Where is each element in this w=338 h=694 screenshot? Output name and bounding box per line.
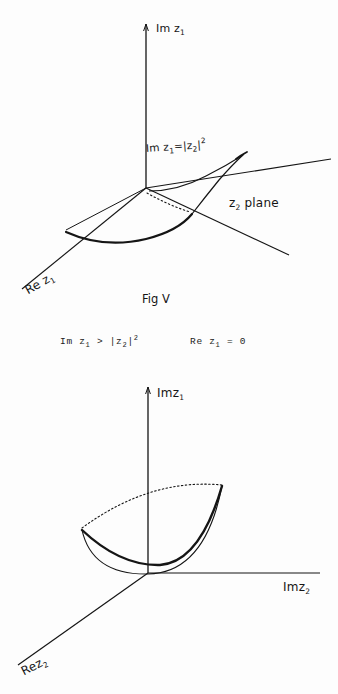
formula-inequality: Im z1 > |z2|2: [60, 336, 139, 347]
sheet-tip-stroke: [236, 152, 247, 159]
label-im-z2-axis: Imz2: [283, 580, 310, 594]
label-im-z1-text: Imz: [157, 386, 179, 400]
sheet-left-straight-edge: [66, 188, 146, 230]
formula-ineq-exponent: 2: [134, 334, 139, 342]
document-page: Im z1 Im z1=|z2|2 z2 plane Re z1 Fig V I…: [0, 0, 338, 694]
lower-figure-canvas: [0, 370, 338, 694]
formula-ineq-lead-sub: 1: [86, 341, 91, 349]
bowl-rim-back-dotted: [82, 484, 222, 528]
label-im-z1-axis-sub: 1: [180, 28, 185, 37]
sheet-front-rim-thick: [66, 214, 192, 243]
label-im-z2-text: Imz: [283, 580, 305, 594]
formula-ineq-arg-sub: 2: [123, 341, 128, 349]
label-surface-lhs-sub: 1: [169, 146, 175, 155]
bowl-rim-front-thick: [82, 486, 222, 565]
label-z2-plane: z2 plane: [229, 196, 279, 210]
formula-equation: Re z1 = 0: [190, 336, 246, 347]
label-im-z1-axis: Imz1: [157, 386, 184, 400]
formula-eq-lead-sub: 1: [216, 341, 221, 349]
axis-line-z2-plane-upper: [146, 159, 331, 188]
formula-ineq-relation: > |z: [91, 336, 123, 347]
axis-line-re-z2: [18, 573, 148, 665]
formula-eq-lead: Re z: [190, 336, 216, 347]
label-im-z1-sub: 1: [179, 393, 184, 402]
label-surface-eq: =|z: [173, 139, 192, 152]
formula-ineq-lead: Im z: [60, 336, 86, 347]
formula-eq-relation: = 0: [221, 336, 247, 347]
label-im-z1-axis-text: Im z: [156, 22, 180, 35]
fig-v-upper-diagram: Im z1 Im z1=|z2|2 z2 plane Re z1 Fig V: [0, 0, 338, 330]
label-surface-lhs: Im z: [146, 140, 170, 154]
label-im-z2-sub: 2: [305, 587, 310, 596]
bowl-outline-thin: [82, 486, 222, 574]
label-im-z1-axis: Im z1: [156, 22, 185, 35]
sheet-hidden-rim-dotted: [147, 193, 190, 212]
fig-v-lower-diagram: Imz1 Imz2 Rez2: [0, 370, 338, 694]
label-surface-exponent: 2: [200, 136, 206, 145]
formula-ineq-close: |: [127, 336, 133, 347]
label-z2-plane-sub: 2: [236, 203, 241, 212]
label-z2-plane-symbol: z: [229, 196, 236, 210]
figure-caption: Fig V: [142, 292, 170, 306]
label-z2-plane-tail: plane: [240, 196, 278, 210]
